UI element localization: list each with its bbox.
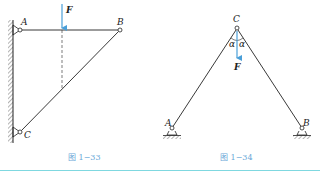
wall-hatch	[8, 20, 13, 143]
label-c: C	[233, 14, 240, 24]
joint-c	[235, 26, 239, 30]
label-a: A	[164, 118, 172, 128]
caption-fig-1-34: 图 1−34	[220, 153, 253, 162]
member-cb	[22, 32, 119, 131]
member-bc	[238, 30, 302, 128]
label-c: C	[24, 130, 31, 140]
label-force-f: F	[65, 5, 73, 15]
figure-1-34: C α α F A B 图 1−34	[163, 14, 311, 162]
label-force-f: F	[233, 62, 241, 72]
label-alpha-right: α	[239, 39, 245, 49]
diagram-canvas: F A B C 图 1−33 C α α F A B	[0, 0, 320, 177]
member-ac	[172, 30, 236, 128]
label-a: A	[20, 17, 28, 27]
label-alpha-left: α	[229, 39, 235, 49]
label-b: B	[116, 17, 124, 27]
label-b: B	[302, 118, 310, 128]
joint-b	[118, 28, 122, 32]
caption-fig-1-33: 图 1−33	[68, 153, 101, 162]
figure-1-33: F A B C 图 1−33	[8, 4, 124, 162]
